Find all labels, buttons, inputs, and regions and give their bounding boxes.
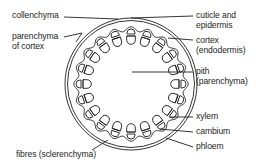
vascular-bundle — [151, 114, 167, 131]
leader-phloem — [166, 138, 193, 147]
vascular-bundle — [167, 92, 184, 105]
vascular-bundle — [167, 63, 184, 76]
label-cortex-endodermis: cortex (endodermis) — [196, 36, 245, 55]
vascular-bundle — [161, 48, 178, 64]
leader-cuticle — [131, 16, 193, 18]
vascular-bundle — [127, 29, 136, 44]
vascular-bundle — [110, 30, 123, 47]
label-cambium: cambium — [196, 127, 230, 137]
vascular-bundle — [77, 63, 94, 76]
label-cuticle-and-epidermis: cuticle and epidermis — [196, 11, 236, 30]
vascular-bundles — [76, 29, 186, 139]
label-pith: pith (parenchyma) — [196, 67, 248, 86]
vascular-bundle — [171, 80, 186, 89]
label-phloem: phloem — [196, 142, 224, 152]
vascular-bundle — [84, 104, 101, 120]
vascular-bundle — [139, 30, 152, 47]
vascular-bundle — [110, 120, 123, 137]
label-parenchyma-of-cortex: parenchyma of cortex — [12, 32, 58, 51]
vascular-bundle — [139, 120, 152, 137]
vascular-bundle — [95, 37, 111, 54]
vascular-bundle — [127, 124, 136, 139]
vascular-bundle — [76, 80, 91, 89]
leader-collenchyma — [64, 17, 118, 19]
label-xylem: xylem — [196, 112, 218, 122]
vascular-bundle — [77, 92, 94, 105]
label-collenchyma: collenchyma — [12, 11, 59, 21]
vascular-bundle — [84, 48, 101, 64]
vascular-bundle — [95, 114, 111, 131]
label-fibres: fibres (sclerenchyma) — [16, 150, 96, 160]
vascular-bundle — [151, 37, 167, 54]
